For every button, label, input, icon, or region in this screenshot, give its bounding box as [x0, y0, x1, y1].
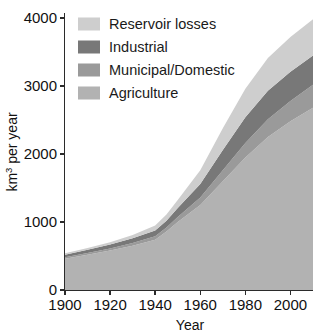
legend-swatch-reservoir-losses	[78, 18, 100, 31]
legend-label-reservoir-losses: Reservoir losses	[109, 16, 216, 32]
legend-label-agriculture: Agriculture	[109, 85, 178, 101]
x-axis-title: Year	[176, 317, 205, 333]
x-axis-ticks: 190019201940196019802000	[48, 290, 307, 313]
y-tick-label: 2000	[24, 145, 57, 162]
legend-swatch-industrial	[78, 41, 100, 54]
legend-swatch-municipal-domestic	[78, 64, 100, 77]
svg-text:km3 per year: km3 per year	[3, 112, 20, 192]
x-tick-label: 2000	[274, 296, 307, 313]
x-tick-label: 1980	[229, 296, 262, 313]
y-axis-title-base: km	[4, 173, 20, 192]
chart-container: 01000200030004000 1900192019401960198020…	[0, 0, 317, 336]
y-tick-label: 3000	[24, 77, 57, 94]
y-axis-ticks: 01000200030004000	[24, 9, 65, 298]
legend-label-industrial: Industrial	[109, 39, 168, 55]
y-axis-title-tail: per year	[4, 112, 20, 168]
stacked-area-chart: 01000200030004000 1900192019401960198020…	[0, 0, 317, 336]
chart-legend: Reservoir lossesIndustrialMunicipal/Dome…	[78, 16, 235, 101]
x-tick-label: 1960	[184, 296, 217, 313]
chart-area-bands	[65, 19, 313, 290]
x-tick-label: 1940	[138, 296, 171, 313]
y-tick-label: 1000	[24, 213, 57, 230]
legend-label-municipal-domestic: Municipal/Domestic	[109, 62, 235, 78]
y-tick-label: 4000	[24, 9, 57, 26]
x-tick-label: 1900	[48, 296, 81, 313]
x-tick-label: 1920	[93, 296, 126, 313]
legend-swatch-agriculture	[78, 87, 100, 100]
y-axis-title: km3 per year	[3, 112, 20, 192]
